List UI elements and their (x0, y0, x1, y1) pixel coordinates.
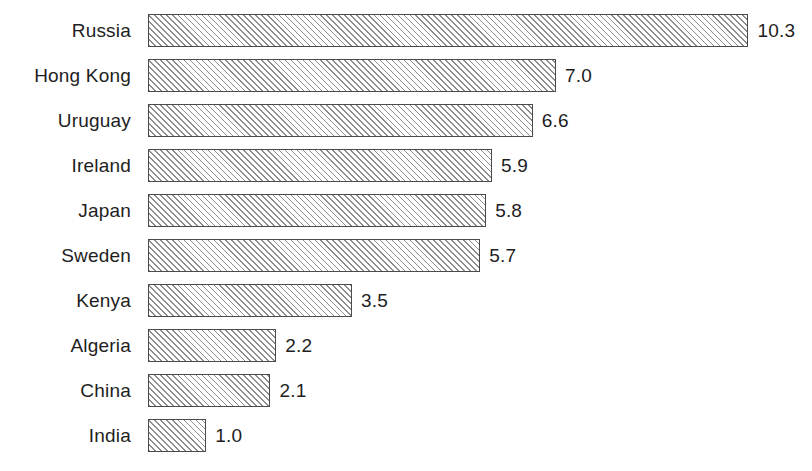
bar-and-value: 2.2 (148, 329, 312, 362)
bar (148, 14, 748, 47)
bar-row: Algeria2.2 (0, 329, 812, 362)
category-label: Algeria (0, 329, 131, 362)
bar (148, 59, 556, 92)
bar-and-value: 10.3 (148, 14, 795, 47)
value-label: 2.1 (279, 374, 306, 407)
category-label: India (0, 419, 131, 452)
bar-row: Ireland5.9 (0, 149, 812, 182)
category-label: Hong Kong (0, 59, 131, 92)
bar (148, 239, 480, 272)
bar-row: China2.1 (0, 374, 812, 407)
category-label: Uruguay (0, 104, 131, 137)
value-label: 5.9 (501, 149, 528, 182)
category-label: Kenya (0, 284, 131, 317)
value-label: 7.0 (565, 59, 592, 92)
bar (148, 374, 270, 407)
bar-row: Sweden5.7 (0, 239, 812, 272)
bar-row: Japan5.8 (0, 194, 812, 227)
bar-row: Uruguay6.6 (0, 104, 812, 137)
value-label: 2.2 (285, 329, 312, 362)
value-label: 5.8 (495, 194, 522, 227)
bar-and-value: 1.0 (148, 419, 242, 452)
bar (148, 284, 352, 317)
category-label: Japan (0, 194, 131, 227)
category-label: Russia (0, 14, 131, 47)
bar (148, 149, 492, 182)
category-label: Sweden (0, 239, 131, 272)
bar-and-value: 5.9 (148, 149, 528, 182)
bar-row: Russia10.3 (0, 14, 812, 47)
bar (148, 104, 533, 137)
category-label: China (0, 374, 131, 407)
bar-and-value: 6.6 (148, 104, 569, 137)
bar-row: Hong Kong7.0 (0, 59, 812, 92)
bar (148, 329, 276, 362)
bar (148, 194, 486, 227)
bar-and-value: 2.1 (148, 374, 306, 407)
bar-and-value: 7.0 (148, 59, 592, 92)
bar-row: Kenya3.5 (0, 284, 812, 317)
value-label: 5.7 (489, 239, 516, 272)
value-label: 1.0 (215, 419, 242, 452)
horizontal-bar-chart: Russia10.3Hong Kong7.0Uruguay6.6Ireland5… (0, 0, 812, 471)
value-label: 3.5 (361, 284, 388, 317)
value-label: 6.6 (542, 104, 569, 137)
bar-row: India1.0 (0, 419, 812, 452)
bar-and-value: 3.5 (148, 284, 388, 317)
category-label: Ireland (0, 149, 131, 182)
bar-and-value: 5.8 (148, 194, 522, 227)
bar-and-value: 5.7 (148, 239, 516, 272)
value-label: 10.3 (757, 14, 795, 47)
bar (148, 419, 206, 452)
